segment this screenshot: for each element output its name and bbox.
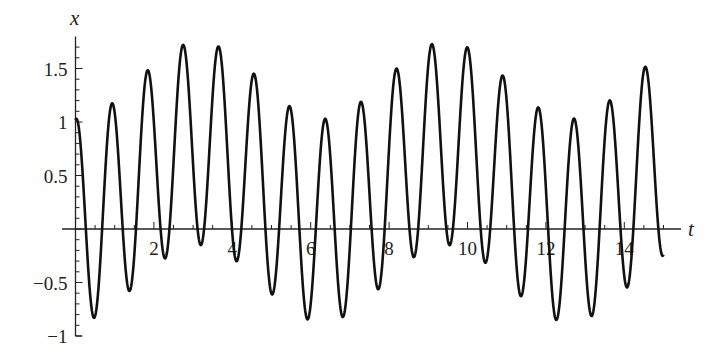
x-tick-label: 2 bbox=[149, 238, 159, 259]
y-tick-label: 1.5 bbox=[44, 59, 68, 80]
y-tick-label: 0.5 bbox=[44, 166, 68, 187]
x-axis-title: t bbox=[688, 217, 695, 241]
y-tick-label: −1 bbox=[47, 326, 67, 347]
y-tick-label: −0.5 bbox=[33, 273, 67, 294]
data-series-x-of-t bbox=[76, 44, 664, 320]
y-axis-title: x bbox=[69, 6, 80, 30]
x-tick-label: 10 bbox=[458, 238, 477, 259]
y-tick-label: 1 bbox=[58, 112, 68, 133]
x-tick-label: 8 bbox=[384, 238, 394, 259]
chart: 2468101214−1−0.50.511.5 t x bbox=[0, 0, 712, 364]
x-tick-label: 12 bbox=[536, 238, 555, 259]
